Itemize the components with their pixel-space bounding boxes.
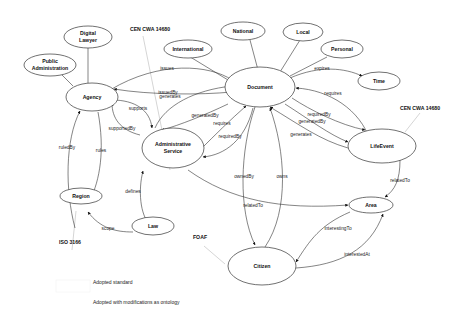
edge-label-relatedto-area: relatedTo bbox=[243, 203, 263, 208]
law-label: Law bbox=[148, 223, 159, 229]
node-public-administration[interactable]: Public Administration bbox=[24, 54, 76, 76]
node-administrative-service[interactable]: Administrative Service bbox=[142, 128, 204, 168]
standard-cen-left: CEN CWA 14680 bbox=[130, 26, 170, 32]
admin-service-label-1: Administrative bbox=[155, 141, 191, 147]
edge-label-generatedby-right: generatedBy bbox=[298, 119, 326, 124]
node-national[interactable]: National bbox=[221, 22, 265, 40]
time-label: Time bbox=[373, 78, 385, 84]
edge-label-rules: rules bbox=[96, 148, 107, 153]
edge-label-expires: expires bbox=[314, 66, 330, 71]
admin-service-label-2: Service bbox=[164, 148, 183, 154]
edge-label-generates-top: generates bbox=[159, 94, 181, 99]
national-label: National bbox=[233, 28, 254, 34]
digital-lawyer-label-1: Digital bbox=[80, 30, 96, 36]
edge-label-scope: scope bbox=[102, 226, 115, 231]
region-label: Region bbox=[72, 193, 90, 199]
node-area[interactable]: Area bbox=[349, 197, 393, 213]
edge-label-requires-left: requires bbox=[213, 121, 231, 126]
legend-adopted-standard: Adopted standard bbox=[93, 279, 133, 285]
personal-label: Personal bbox=[331, 46, 353, 52]
edge-label-interestingto: interestingTo bbox=[324, 226, 352, 231]
public-admin-label-1: Public bbox=[42, 58, 58, 64]
node-citizen[interactable]: Citizen bbox=[228, 247, 296, 285]
legend-adopted-modified: Adopted with modifications as ontology bbox=[93, 299, 180, 305]
document-label: Document bbox=[247, 84, 273, 90]
node-document[interactable]: Document bbox=[225, 67, 295, 107]
node-personal[interactable]: Personal bbox=[321, 40, 363, 58]
digital-lawyer-label-2: Lawyer bbox=[79, 37, 97, 43]
edge-label-relatedto-life: relatedTo bbox=[390, 178, 410, 183]
legend: Adopted standard Adopted with modificati… bbox=[56, 279, 180, 305]
node-local[interactable]: Local bbox=[283, 23, 323, 41]
edge-label-requires-right: requires bbox=[324, 91, 342, 96]
node-digital-lawyer[interactable]: Digital Lawyer bbox=[64, 26, 112, 48]
edge-label-supportedby: supportedBy bbox=[109, 126, 137, 131]
edge-label-requiredby-left: requiredBy bbox=[218, 134, 242, 139]
citizen-label: Citizen bbox=[253, 263, 270, 269]
edges bbox=[62, 40, 400, 268]
edge-label-owns: owns bbox=[276, 174, 288, 179]
public-admin-label-2: Administration bbox=[32, 65, 69, 71]
ontology-diagram: Digital Lawyer Public Administration Age… bbox=[0, 0, 468, 316]
node-agency[interactable]: Agency bbox=[66, 83, 118, 111]
standard-foaf: FOAF bbox=[193, 234, 207, 240]
edge-label-requiredby-right: requiredBy bbox=[307, 112, 331, 117]
edge-label-defines: defines bbox=[125, 189, 141, 194]
edge-label-ownedby: ownedBy bbox=[234, 174, 254, 179]
edge-label-generates-right: generates bbox=[290, 132, 312, 137]
edge-label-supports: supports bbox=[129, 106, 148, 111]
area-label: Area bbox=[365, 202, 377, 208]
node-life-event[interactable]: LifeEvent bbox=[348, 129, 416, 163]
edge-label-ruledby: ruledBy bbox=[59, 145, 76, 150]
node-region[interactable]: Region bbox=[60, 188, 102, 204]
legend-swatch-standard bbox=[56, 280, 90, 292]
edge-label-issues: issues bbox=[160, 66, 174, 71]
standard-iso: ISO 3166 bbox=[59, 239, 81, 245]
node-time[interactable]: Time bbox=[358, 72, 400, 90]
standard-cen-right: CEN CWA 14680 bbox=[400, 105, 440, 111]
international-label: International bbox=[172, 46, 204, 52]
node-international[interactable]: International bbox=[164, 40, 212, 58]
local-label: Local bbox=[296, 29, 310, 35]
node-law[interactable]: Law bbox=[132, 217, 174, 235]
agency-label: Agency bbox=[83, 94, 102, 100]
life-event-label: LifeEvent bbox=[370, 143, 394, 149]
edge-label-interestedat: interestedAt bbox=[344, 252, 370, 257]
edge-label-generatedby-left: generatedBy bbox=[191, 113, 219, 118]
